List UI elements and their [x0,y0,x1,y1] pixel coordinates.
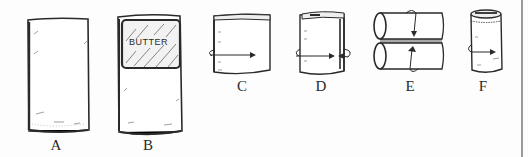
page-edge-divider [521,0,523,157]
figure-f-final-roll [465,7,509,77]
figure-a-label: A [41,137,71,154]
figure-d-label: D [306,78,336,95]
butter-package-text: BUTTER [129,37,168,47]
figure-c-label: C [227,78,257,95]
figure-b-blanket-with-butter: BUTTER [114,11,186,139]
figure-d-side-fold [292,9,356,79]
figure-b-label: B [133,137,163,154]
figure-e-label: E [395,78,425,95]
figure-c-folded [206,10,278,80]
figure-f-label: F [468,78,498,95]
figure-e-double-roll [370,9,448,75]
figure-a-flat-blanket [24,14,94,138]
illustration-stage: A BUTTER B C D [0,0,528,157]
